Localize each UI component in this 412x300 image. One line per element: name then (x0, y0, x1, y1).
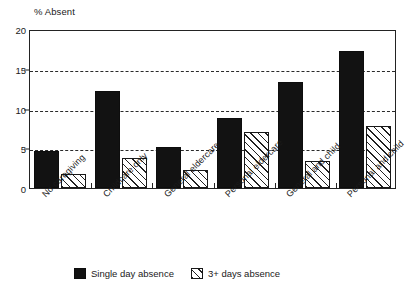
y-tick-label-10: 10 (2, 104, 26, 115)
category-separator-1 (91, 183, 92, 188)
y-tick-mark-10 (24, 109, 30, 110)
plot-area (29, 30, 396, 189)
legend-entry-2: 3+ days absence (191, 268, 280, 279)
bar-chart: % Absent 05101520 No caregivingChildcare… (0, 0, 412, 300)
legend: Single day absence3+ days absence (74, 268, 289, 279)
category-separator-3 (214, 183, 215, 188)
solid-black-swatch (74, 268, 86, 279)
bar-single-day-6 (339, 51, 364, 188)
y-axis-title: % Absent (34, 6, 75, 17)
bar-single-day-5 (278, 82, 303, 188)
y-tick-label-0: 0 (2, 184, 26, 195)
y-tick-mark-15 (24, 69, 30, 70)
legend-label-2: 3+ days absence (208, 268, 280, 279)
category-separator-5 (336, 183, 337, 188)
hatched-swatch (191, 268, 203, 279)
y-tick-mark-5 (24, 149, 30, 150)
y-tick-label-20: 20 (2, 25, 26, 36)
y-tick-label-5: 5 (2, 144, 26, 155)
category-separator-4 (275, 183, 276, 188)
bar-single-day-2 (95, 91, 120, 188)
legend-entry-1: Single day absence (74, 268, 174, 279)
legend-label-1: Single day absence (91, 268, 174, 279)
y-tick-label-15: 15 (2, 64, 26, 75)
category-separator-2 (152, 183, 153, 188)
